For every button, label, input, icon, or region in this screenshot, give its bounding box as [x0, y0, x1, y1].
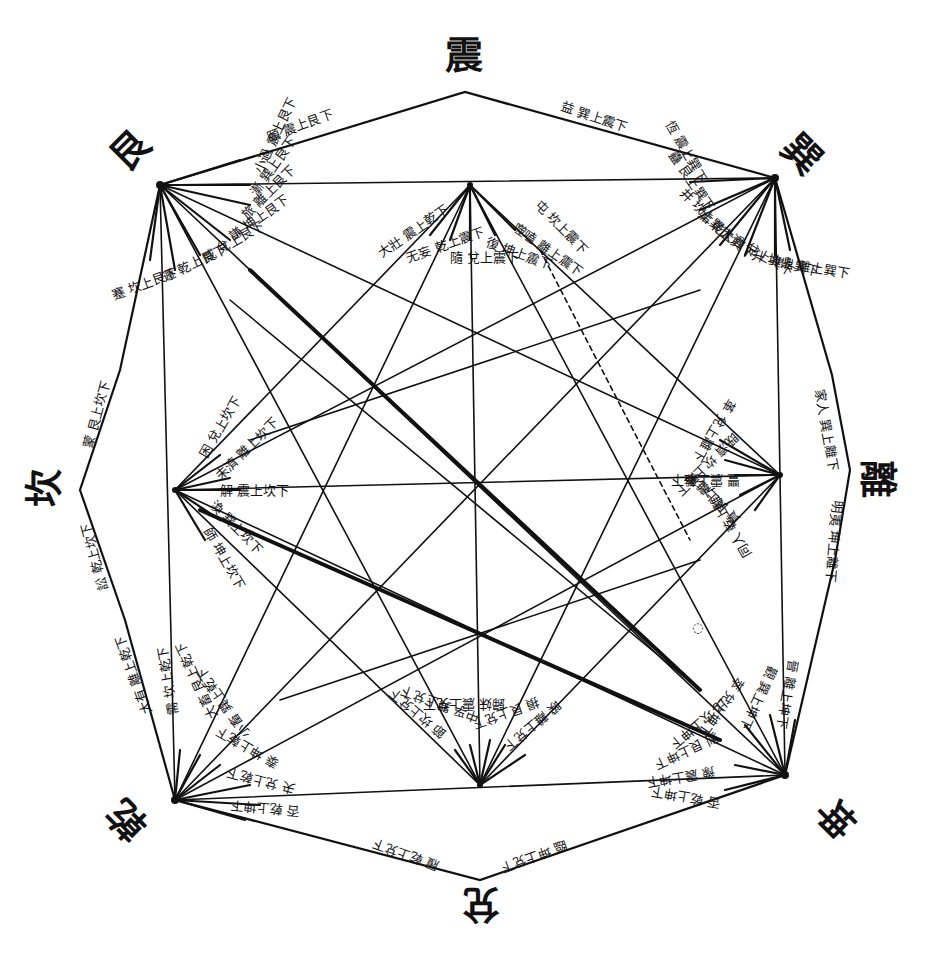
cluster-bottom-right: 晉 離上坤下 觀 巽上坤下 萃 兌上坤下 比 坎上坤下 剝 艮上坤下 豫 震上坤…	[645, 659, 800, 810]
svg-text:解 震上坎下: 解 震上坎下	[220, 483, 289, 498]
svg-text:夬 兌上乾下: 夬 兌上乾下	[226, 765, 297, 797]
svg-text:否 乾上坤下: 否 乾上坤下	[230, 798, 300, 819]
trigram-right: 離	[856, 460, 901, 498]
stray-mark: ◌	[692, 620, 703, 635]
cluster-bottom-inner: 節 坎上兌下 中孚 巽上兌下 歸妹 震上兌下 損 艮上兌下 睽 離上兌下	[387, 683, 564, 754]
cluster-top-left: 蹇 坎上艮下 遯 乾上艮下 咸 兌上艮下 謙 坤上艮下 旅 離上艮下 漸 巽上艮…	[109, 95, 299, 303]
trigram-bottom-right: 坤	[805, 789, 864, 848]
edge-label-bottom-right: 臨 坤上兌下	[499, 838, 569, 876]
edge-label-left-lower: 訟 乾上坎下	[78, 521, 110, 592]
trigram-top-left: 艮	[100, 120, 159, 179]
edge-label-right-lower: 明夷 坤上離下	[822, 500, 844, 583]
trigram-diagram: 震 巽 離 坤 兌 乾 坎 艮 頤 震上艮下 益 巽上震下 家人 巽上離下 明夷…	[0, 0, 941, 969]
trigram-top: 震	[445, 32, 484, 77]
trigram-bottom: 兌	[462, 883, 500, 928]
trigram-left: 坎	[21, 469, 66, 507]
cluster-bottom-left: 大有 離上乾下 需 坎上乾下 大畜 艮上乾下 小畜 巽上乾下 泰 坤上乾下 夬 …	[112, 634, 300, 819]
edge-label-bottom-left: 履 乾上兌下	[371, 836, 441, 874]
cluster-right-inner: 革 兌上離下 既濟 坎上離下 豐 震上離下 賁 艮上離下 同人 乾上離下	[671, 397, 755, 560]
cluster-left-inner: 困 兌上坎下 未濟 離上坎下 解 震上坎下 渙 巽上坎下 師 坤上坎下	[196, 393, 289, 592]
edge-label-left-upper: 蒙 艮上坎下	[81, 379, 113, 450]
trigram-top-right: 巽	[772, 125, 831, 184]
svg-text:否 乾上坤下: 否 乾上坤下	[650, 784, 721, 811]
trigram-bottom-left: 乾	[97, 790, 156, 849]
edge-label-top-right: 益 巽上震下	[559, 99, 629, 135]
